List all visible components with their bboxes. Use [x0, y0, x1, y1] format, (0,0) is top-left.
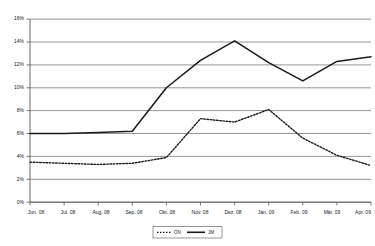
y-tick-labels: 16% 14% 12% 10% 8% 6% 4% 2% 0% — [14, 15, 25, 204]
y-tick-label: 0% — [17, 199, 25, 205]
x-tick-label: Feb. 09 — [291, 209, 308, 215]
x-tick-label: Apr. 09 — [355, 209, 371, 215]
y-tick-label: 16% — [14, 15, 25, 21]
series-line-on — [30, 110, 371, 166]
x-tick-label: Aug. 08 — [92, 209, 109, 215]
y-tick-label: 10% — [14, 84, 25, 90]
legend-label-jm: JM — [208, 230, 214, 235]
x-tick-label: Jän. 09 — [258, 209, 275, 215]
x-tick-label: Mär. 09 — [324, 209, 341, 215]
gridlines — [30, 19, 371, 202]
chart-container: 16% 14% 12% 10% 8% 6% 4% 2% 0% — [0, 0, 375, 246]
x-tick-label: Nov. 08 — [192, 209, 209, 215]
legend: ÖN JM — [153, 227, 222, 239]
chart-svg: 16% 14% 12% 10% 8% 6% 4% 2% 0% — [0, 0, 375, 246]
legend-label-on: ÖN — [174, 229, 181, 235]
x-tick-label: Jun. 08 — [28, 209, 45, 215]
y-tick-label: 8% — [17, 107, 25, 113]
y-tick-label: 14% — [14, 38, 25, 44]
x-tick-label: Dez. 08 — [224, 209, 241, 215]
series-line-jm — [30, 41, 371, 134]
x-tick-label: Jul. 08 — [61, 209, 76, 215]
y-tick-label: 6% — [17, 130, 25, 136]
plot-area: 16% 14% 12% 10% 8% 6% 4% 2% 0% — [0, 0, 375, 246]
y-tick-label: 12% — [14, 61, 25, 67]
y-axis — [27, 19, 31, 202]
x-tick-label: Sep. 08 — [125, 209, 142, 215]
x-axis — [30, 202, 371, 205]
y-tick-label: 2% — [17, 176, 25, 182]
y-tick-label: 4% — [17, 153, 25, 159]
x-tick-labels: Jun. 08 Jul. 08 Aug. 08 Sep. 08 Okt. 08 … — [28, 209, 371, 215]
x-tick-label: Okt. 08 — [159, 209, 175, 215]
